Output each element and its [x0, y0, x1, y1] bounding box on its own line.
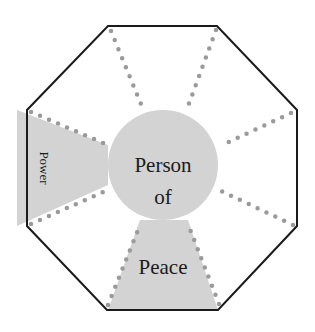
power-label: Power [36, 138, 52, 198]
center-label-line-1: Person [118, 153, 208, 178]
center-label-line-2: of [118, 185, 208, 210]
center-label-line-3: Peace [118, 255, 208, 280]
power-wedge [17, 110, 108, 226]
